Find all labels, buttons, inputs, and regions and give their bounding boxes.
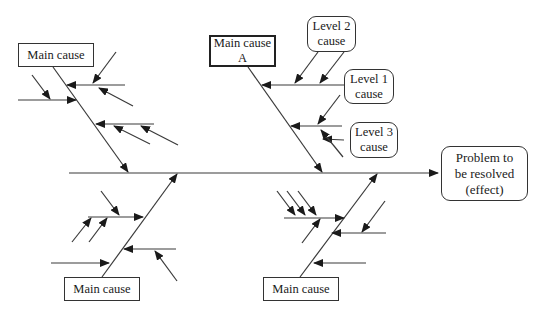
level-2-cause-box: Level 2 cause	[307, 16, 356, 52]
level-1-cause-box: Level 1 cause	[344, 69, 394, 104]
main-cause-bottom-left-box: Main cause	[64, 277, 140, 301]
main-cause-top-left-box: Main cause	[18, 43, 94, 67]
level-3-cause-box: Level 3 cause	[350, 122, 398, 158]
main-cause-a-box: Main cause A	[209, 35, 276, 67]
effect-box: Problem to be resolved (effect)	[441, 146, 528, 201]
main-cause-bottom-center-box: Main cause	[263, 277, 339, 301]
